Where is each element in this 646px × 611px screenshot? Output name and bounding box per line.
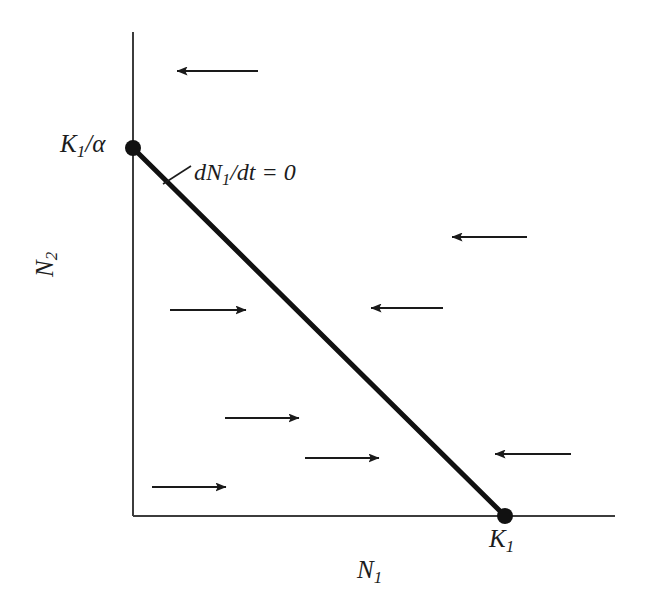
x-axis-label-subscript: 1 — [374, 568, 383, 587]
y-intercept-label-main: K — [60, 130, 77, 157]
y-intercept-label: K1/α — [60, 131, 105, 160]
isocline-label-prefix: dN — [194, 159, 222, 185]
y-intercept-label-suffix: /α — [85, 130, 105, 157]
y-axis-label: N2 — [32, 234, 61, 294]
x-intercept-dot — [497, 508, 513, 524]
diagram-canvas — [0, 0, 646, 611]
y-intercept-dot — [125, 140, 141, 156]
x-intercept-label-main: K — [489, 525, 506, 552]
isocline-label: dN1/dt = 0 — [194, 160, 296, 188]
isocline-label-subscript: 1 — [222, 170, 230, 189]
y-intercept-label-subscript: 1 — [77, 142, 86, 161]
figure-container: K1/α K1 dN1/dt = 0 N1 N2 — [0, 0, 646, 611]
isocline-label-suffix: /dt = 0 — [230, 159, 296, 185]
y-axis-label-main: N — [31, 260, 58, 277]
isocline-leader-line — [163, 166, 191, 184]
isocline-line — [133, 148, 505, 516]
x-axis-label-main: N — [357, 556, 374, 583]
x-intercept-label-subscript: 1 — [506, 537, 515, 556]
x-intercept-label: K1 — [489, 526, 514, 555]
x-axis-label: N1 — [357, 557, 382, 586]
y-axis-label-subscript: 2 — [42, 252, 61, 261]
